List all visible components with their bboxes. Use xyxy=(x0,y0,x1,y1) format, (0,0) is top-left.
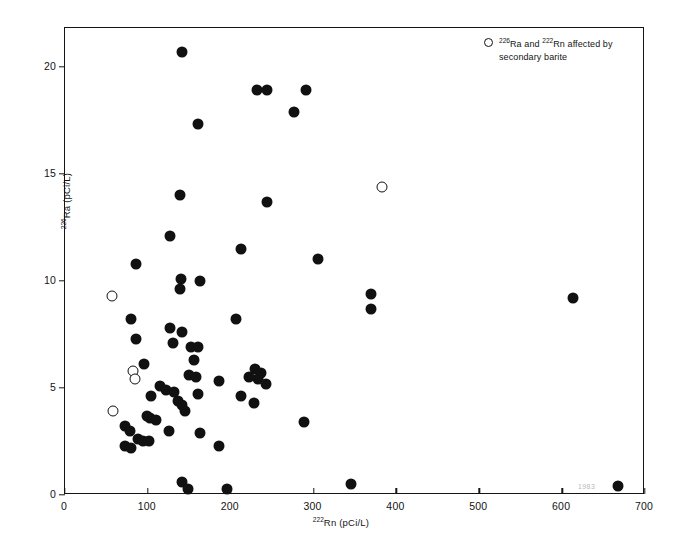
y-tick xyxy=(59,387,65,388)
data-point xyxy=(167,337,178,348)
x-tick-label: 500 xyxy=(469,500,487,512)
data-point xyxy=(230,314,241,325)
data-point xyxy=(107,290,118,301)
data-point xyxy=(288,106,299,117)
x-tick-label: 300 xyxy=(304,500,322,512)
y-tick xyxy=(59,66,65,67)
legend: 226Ra and 222Rn affected bysecondary bar… xyxy=(484,36,656,64)
x-tick-label: 600 xyxy=(552,500,570,512)
data-point xyxy=(176,273,187,284)
x-tick xyxy=(230,488,231,494)
data-point xyxy=(146,391,157,402)
data-point xyxy=(262,196,273,207)
legend-line1-part1: Ra and xyxy=(510,39,540,49)
data-point xyxy=(126,314,137,325)
data-point xyxy=(164,425,175,436)
y-axis-label-isotope: 226 xyxy=(60,218,67,229)
legend-text: 226Ra and 222Rn affected bysecondary bar… xyxy=(499,36,613,64)
data-point xyxy=(126,442,137,453)
data-point xyxy=(236,391,247,402)
x-tick xyxy=(479,488,480,494)
data-point xyxy=(193,342,204,353)
x-tick xyxy=(147,488,148,494)
data-point xyxy=(175,284,186,295)
data-point xyxy=(192,389,203,400)
data-point xyxy=(108,406,119,417)
data-point xyxy=(195,275,206,286)
data-point xyxy=(248,397,259,408)
data-point xyxy=(345,479,356,490)
y-axis-label: 226Ra (pCi/L) xyxy=(60,131,72,271)
x-tick xyxy=(561,488,562,494)
data-point xyxy=(151,415,162,426)
data-point xyxy=(165,322,176,333)
data-point xyxy=(567,292,578,303)
y-tick-label: 0 xyxy=(50,488,56,500)
data-point xyxy=(192,119,203,130)
data-point xyxy=(190,372,201,383)
data-point xyxy=(312,254,323,265)
legend-line2: secondary barite xyxy=(499,52,567,62)
data-point xyxy=(165,230,176,241)
x-tick xyxy=(644,488,645,494)
data-point xyxy=(214,440,225,451)
data-point xyxy=(298,417,309,428)
data-point xyxy=(175,190,186,201)
x-tick-label: 700 xyxy=(635,500,653,512)
x-tick xyxy=(313,488,314,494)
data-point xyxy=(143,436,154,447)
data-point xyxy=(365,288,376,299)
x-tick-label: 100 xyxy=(138,500,156,512)
data-point xyxy=(189,355,200,366)
plot-frame xyxy=(64,27,644,494)
y-axis-label-text: Ra (pCi/L) xyxy=(61,173,72,218)
data-point xyxy=(195,427,206,438)
y-tick-label: 15 xyxy=(44,167,56,179)
x-tick-label: 0 xyxy=(61,500,67,512)
open-circle-icon xyxy=(484,38,493,47)
data-point xyxy=(261,378,272,389)
data-point xyxy=(262,85,273,96)
x-tick xyxy=(64,488,65,494)
data-point xyxy=(131,258,142,269)
x-axis-label-text: Rn (pCi/L) xyxy=(324,517,369,528)
legend-isotope-rn: 222 xyxy=(542,37,553,44)
scatter-plot-figure: 0100200300400500600700 05101520 222Rn (p… xyxy=(0,0,682,550)
data-point xyxy=(131,333,142,344)
x-tick xyxy=(396,488,397,494)
y-tick-label: 5 xyxy=(50,381,56,393)
data-point xyxy=(130,374,141,385)
legend-isotope-ra: 226 xyxy=(499,37,510,44)
x-axis-label: 222Rn (pCi/L) xyxy=(0,516,682,528)
plot-area xyxy=(65,28,643,493)
x-tick-label: 400 xyxy=(386,500,404,512)
x-axis-label-isotope: 222 xyxy=(313,516,324,523)
y-tick-label: 20 xyxy=(44,60,56,72)
x-tick-label: 200 xyxy=(221,500,239,512)
y-tick xyxy=(59,280,65,281)
legend-line1-part2: Rn affected by xyxy=(553,39,612,49)
data-point xyxy=(214,376,225,387)
data-point xyxy=(377,181,388,192)
data-point xyxy=(612,481,623,492)
data-point xyxy=(180,406,191,417)
data-point xyxy=(365,303,376,314)
data-point xyxy=(301,85,312,96)
y-tick-label: 10 xyxy=(44,274,56,286)
data-point xyxy=(235,243,246,254)
data-point xyxy=(182,483,193,494)
data-point xyxy=(176,46,187,57)
y-tick xyxy=(59,494,65,495)
scan-artifact: 1983 xyxy=(578,483,595,490)
data-point xyxy=(138,359,149,370)
data-point xyxy=(176,327,187,338)
